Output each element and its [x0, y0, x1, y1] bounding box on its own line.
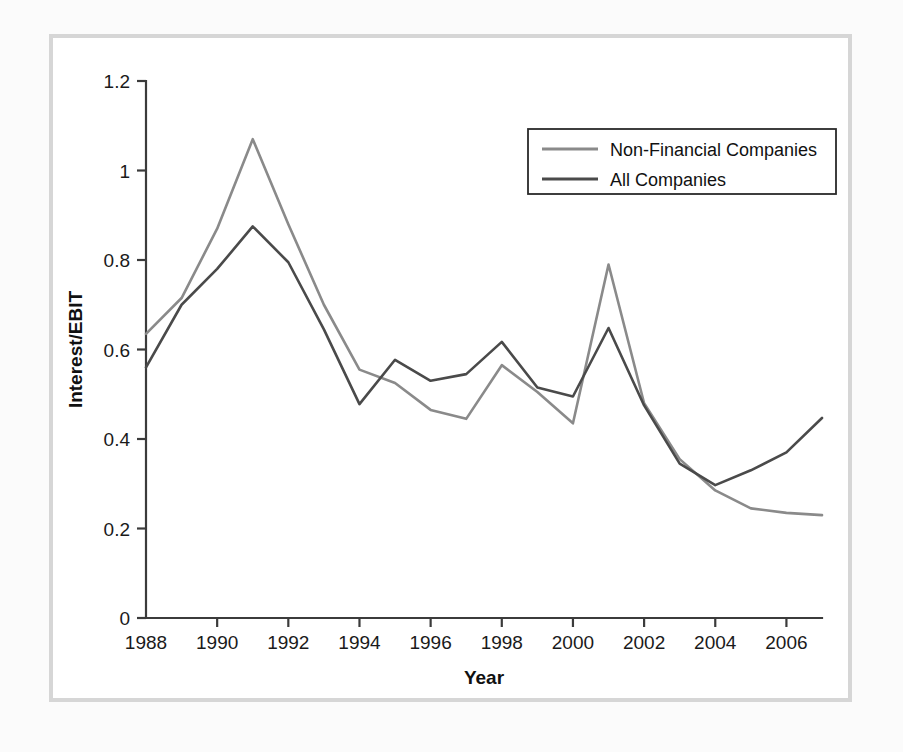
- x-tick-label: 2000: [552, 632, 594, 653]
- legend-label-2: All Companies: [610, 170, 726, 190]
- line-chart: 00.20.40.60.811.2 1988199019921994199619…: [0, 0, 903, 752]
- y-tick-label: 0.2: [104, 519, 130, 540]
- y-axis-title-text: Interest/EBIT: [65, 291, 86, 409]
- y-tick-label: 1: [119, 161, 130, 182]
- x-tick-label: 1992: [267, 632, 309, 653]
- plot-area: 00.20.40.60.811.2 1988199019921994199619…: [0, 0, 903, 752]
- y-axis-title: Interest/EBIT: [65, 291, 86, 409]
- y-tick-label: 0.6: [104, 340, 130, 361]
- x-tick-label: 1998: [481, 632, 523, 653]
- series-line-non-financial-companies: [146, 139, 822, 515]
- x-tick-label: 2004: [694, 632, 737, 653]
- y-tick-label: 0.8: [104, 250, 130, 271]
- y-tick-label: 1.2: [104, 71, 130, 92]
- x-axis-ticks: 1988199019921994199619982000200220042006: [125, 618, 808, 653]
- series-line-all-companies: [146, 226, 822, 485]
- x-axis-title-text: Year: [464, 667, 505, 688]
- x-axis-title: Year: [464, 667, 505, 688]
- y-axis-ticks: 00.20.40.60.811.2: [104, 71, 146, 629]
- y-tick-label: 0.4: [104, 429, 131, 450]
- chart-legend: Non-Financial CompaniesAll Companies: [528, 129, 836, 194]
- x-tick-label: 1994: [338, 632, 381, 653]
- legend-label-1: Non-Financial Companies: [610, 140, 817, 160]
- data-series: [146, 139, 822, 515]
- x-tick-label: 2002: [623, 632, 665, 653]
- x-tick-label: 2006: [765, 632, 807, 653]
- x-tick-label: 1988: [125, 632, 167, 653]
- figure-root: 00.20.40.60.811.2 1988199019921994199619…: [0, 0, 903, 752]
- y-tick-label: 0: [119, 608, 130, 629]
- x-tick-label: 1990: [196, 632, 238, 653]
- x-tick-label: 1996: [409, 632, 451, 653]
